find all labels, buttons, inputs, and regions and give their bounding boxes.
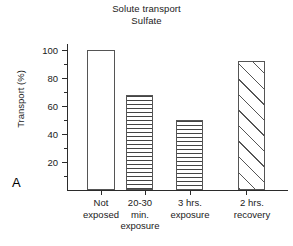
x-label-2-hrs-line2: recovery (222, 209, 282, 221)
bar-3-hrs-exposure (176, 120, 203, 190)
x-label-20-30-min-line3: exposure (113, 220, 167, 232)
y-minor-tick-10 (64, 176, 68, 177)
y-minor-tick-50 (64, 120, 68, 121)
bar-not-exposed (87, 50, 115, 190)
y-minor-tick-30 (64, 148, 68, 149)
x-label-2-hrs-recovery: 2 hrs. recovery (222, 197, 282, 220)
y-tick-label-100: 100 (34, 46, 58, 56)
chart-title-line2: Sulfate (0, 15, 293, 27)
bar-20-30-min-exposure (126, 95, 153, 190)
y-tick-60 (62, 106, 68, 107)
y-tick-label-40: 40 (34, 130, 58, 140)
y-tick-80 (62, 78, 68, 79)
x-tick-2 (145, 190, 146, 195)
y-minor-tick-90 (64, 64, 68, 65)
y-tick-label-60: 60 (34, 102, 58, 112)
y-tick-40 (62, 134, 68, 135)
x-tick-4 (246, 190, 247, 195)
x-label-2-hrs-line1: 2 hrs. (222, 197, 282, 209)
x-label-3-hrs-exposure: 3 hrs. exposure (161, 197, 219, 220)
panel-label: A (12, 176, 21, 189)
y-tick-label-80: 80 (34, 74, 58, 84)
chart-title-line1: Solute transport (112, 3, 181, 14)
x-tick-3 (190, 190, 191, 195)
y-tick-100 (62, 50, 68, 51)
x-label-20-30-min-line2: min. (113, 209, 167, 221)
y-tick-label-20: 20 (34, 158, 58, 168)
bar-2-hrs-recovery (238, 61, 265, 190)
x-label-3-hrs-line2: exposure (161, 209, 219, 221)
y-axis-line (67, 44, 68, 191)
x-label-3-hrs-line1: 3 hrs. (161, 197, 219, 209)
x-label-20-30-min-line1: 20-30 (113, 197, 167, 209)
y-axis-label: Transport (%) (16, 49, 26, 149)
y-minor-tick-70 (64, 92, 68, 93)
x-tick-1 (101, 190, 102, 195)
chart-title: Solute transport Sulfate (0, 3, 293, 27)
y-tick-20 (62, 162, 68, 163)
chart-figure: Solute transport Sulfate A Transport (%)… (0, 0, 293, 246)
x-label-20-30-min-exposure: 20-30 min. exposure (113, 197, 167, 232)
